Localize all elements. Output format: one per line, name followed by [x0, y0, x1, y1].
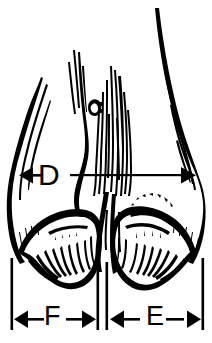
dimension-label-E: E: [146, 303, 164, 330]
extension-line-right-outer: [202, 258, 205, 330]
dimension-label-F: F: [44, 303, 61, 330]
hoof-line-art: [0, 0, 212, 343]
extension-line-left-outer: [11, 258, 14, 330]
extension-line-mid-left: [97, 262, 100, 330]
hoof-measurement-figure: D F E: [0, 0, 212, 343]
dimension-label-D: D: [38, 160, 60, 190]
extension-line-mid-right: [106, 262, 109, 330]
